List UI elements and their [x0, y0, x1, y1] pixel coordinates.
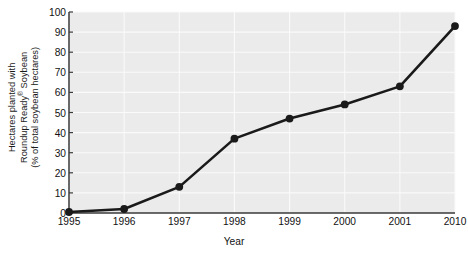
data-point-marker[interactable] — [175, 183, 183, 191]
x-axis-tick-label: 2000 — [333, 216, 356, 227]
x-axis-tick-label: 2010 — [444, 216, 467, 227]
data-point-marker[interactable] — [65, 208, 73, 216]
x-axis-tick-label: 1996 — [113, 216, 136, 227]
x-axis-tick-label: 1997 — [168, 216, 191, 227]
x-axis-tick-label: 1998 — [223, 216, 246, 227]
data-point-marker[interactable] — [451, 22, 459, 30]
data-point-marker[interactable] — [231, 135, 239, 143]
x-axis-tick-label: 2001 — [389, 216, 412, 227]
chart-figure: Hectares planted with Roundup Ready® Soy… — [0, 0, 468, 277]
x-axis-label: Year — [0, 236, 468, 247]
x-axis-tick-label: 1995 — [58, 216, 81, 227]
data-point-marker[interactable] — [396, 82, 404, 90]
data-point-marker[interactable] — [286, 115, 294, 123]
data-point-marker[interactable] — [120, 205, 128, 213]
x-axis-tick-label: 1999 — [278, 216, 301, 227]
data-point-marker[interactable] — [341, 101, 349, 109]
x-axis-tick-labels: 19951996199719981999200020012010 — [0, 216, 468, 232]
